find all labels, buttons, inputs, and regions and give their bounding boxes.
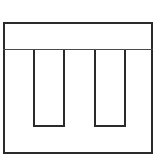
left-u-slot [33,50,65,127]
frame-slots-diagram [0,0,163,163]
header-divider-line [3,49,153,50]
outer-frame [3,22,153,154]
right-u-slot [94,50,126,127]
